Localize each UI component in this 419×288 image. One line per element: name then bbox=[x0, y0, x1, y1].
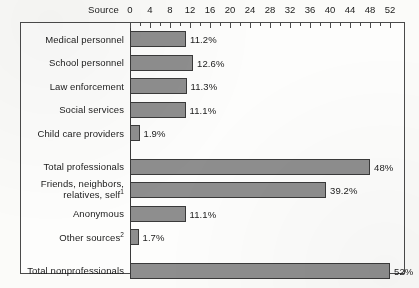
bar-row[interactable]: Other sources21.7% bbox=[0, 229, 419, 246]
x-minor-tick-2 bbox=[140, 22, 141, 26]
x-major-tick-52 bbox=[390, 22, 391, 28]
bar-row[interactable]: Total professionals48% bbox=[0, 159, 419, 176]
bar-row[interactable]: Law enforcement11.3% bbox=[0, 78, 419, 95]
x-major-tick-4 bbox=[150, 22, 151, 28]
bar[interactable] bbox=[130, 182, 326, 198]
bar-value-label: 12.6% bbox=[197, 58, 224, 69]
bar-row-label: Total professionals bbox=[24, 161, 124, 172]
bar-row[interactable]: Friends, neighbors,relatives, self139.2% bbox=[0, 182, 419, 199]
bar[interactable] bbox=[130, 78, 187, 94]
footnote-marker: 2 bbox=[120, 230, 124, 237]
x-major-tick-0 bbox=[130, 22, 131, 28]
x-tick-label-36: 36 bbox=[305, 4, 316, 15]
bar[interactable] bbox=[130, 102, 186, 118]
x-major-tick-32 bbox=[290, 22, 291, 28]
footnote-marker: 1 bbox=[120, 187, 124, 194]
bar-value-label: 48% bbox=[374, 162, 393, 173]
x-minor-tick-6 bbox=[160, 22, 161, 26]
x-minor-tick-10 bbox=[180, 22, 181, 26]
x-minor-tick-38 bbox=[320, 22, 321, 26]
bar[interactable] bbox=[130, 31, 186, 47]
bar-row-label: Other sources2 bbox=[24, 232, 124, 243]
x-major-tick-12 bbox=[190, 22, 191, 28]
bar-value-label: 11.1% bbox=[190, 209, 217, 220]
x-major-tick-16 bbox=[210, 22, 211, 28]
x-tick-label-32: 32 bbox=[285, 4, 296, 15]
x-major-tick-24 bbox=[250, 22, 251, 28]
bar-row[interactable]: School personnel12.6% bbox=[0, 55, 419, 72]
bar-value-label: 1.7% bbox=[143, 232, 165, 243]
bar-row-label: School personnel bbox=[24, 57, 124, 68]
axis-header: Source 0481216202428323640444852 bbox=[0, 0, 419, 22]
bar-value-label: 39.2% bbox=[330, 185, 357, 196]
bar-row-label: Child care providers bbox=[24, 128, 124, 139]
bar[interactable] bbox=[130, 55, 193, 71]
x-tick-label-24: 24 bbox=[245, 4, 256, 15]
x-tick-label-48: 48 bbox=[365, 4, 376, 15]
x-minor-tick-22 bbox=[240, 22, 241, 26]
x-tick-label-52: 52 bbox=[385, 4, 396, 15]
x-minor-tick-50 bbox=[380, 22, 381, 26]
x-tick-label-4: 4 bbox=[147, 4, 152, 15]
bar-value-label: 52% bbox=[394, 266, 413, 277]
bar-row[interactable]: Child care providers1.9% bbox=[0, 125, 419, 142]
x-minor-tick-26 bbox=[260, 22, 261, 26]
bar-value-label: 11.3% bbox=[191, 81, 218, 92]
bar-row[interactable]: Medical personnel11.2% bbox=[0, 31, 419, 48]
x-tick-label-44: 44 bbox=[345, 4, 356, 15]
bar-value-label: 11.1% bbox=[190, 105, 217, 116]
x-major-tick-20 bbox=[230, 22, 231, 28]
bar-row-label: Friends, neighbors,relatives, self1 bbox=[24, 179, 124, 200]
bar[interactable] bbox=[130, 263, 390, 279]
bar-row[interactable]: Total nonprofessionals52% bbox=[0, 263, 419, 280]
bar-row-label: Law enforcement bbox=[24, 81, 124, 92]
x-major-tick-28 bbox=[270, 22, 271, 28]
x-minor-tick-34 bbox=[300, 22, 301, 26]
bar[interactable] bbox=[130, 159, 370, 175]
bar-row-label: Medical personnel bbox=[24, 34, 124, 45]
bar[interactable] bbox=[130, 206, 186, 222]
x-major-tick-40 bbox=[330, 22, 331, 28]
x-major-tick-48 bbox=[370, 22, 371, 28]
bar-row-label: Total nonprofessionals bbox=[24, 265, 124, 276]
bar-row-label: Anonymous bbox=[24, 208, 124, 219]
bar[interactable] bbox=[130, 125, 140, 141]
x-minor-tick-42 bbox=[340, 22, 341, 26]
x-axis-line bbox=[130, 22, 405, 23]
bar-row-label-line2: relatives, self1 bbox=[24, 190, 124, 201]
bar[interactable] bbox=[130, 229, 139, 245]
x-minor-tick-18 bbox=[220, 22, 221, 26]
bar-row[interactable]: Anonymous11.1% bbox=[0, 206, 419, 223]
source-column-header: Source bbox=[55, 4, 119, 15]
x-major-tick-8 bbox=[170, 22, 171, 28]
x-tick-label-12: 12 bbox=[185, 4, 196, 15]
bar-row-label-line1: Friends, neighbors, bbox=[24, 179, 124, 190]
x-major-tick-44 bbox=[350, 22, 351, 28]
bar-chart-figure: Source 0481216202428323640444852 Medical… bbox=[0, 0, 419, 288]
x-tick-label-16: 16 bbox=[205, 4, 216, 15]
bar-value-label: 1.9% bbox=[144, 128, 166, 139]
x-tick-label-20: 20 bbox=[225, 4, 236, 15]
bar-row-label: Social services bbox=[24, 104, 124, 115]
x-major-tick-36 bbox=[310, 22, 311, 28]
x-tick-label-0: 0 bbox=[127, 4, 132, 15]
bar-row[interactable]: Social services11.1% bbox=[0, 102, 419, 119]
bar-value-label: 11.2% bbox=[190, 34, 217, 45]
x-tick-label-28: 28 bbox=[265, 4, 276, 15]
x-minor-tick-30 bbox=[280, 22, 281, 26]
x-minor-tick-14 bbox=[200, 22, 201, 26]
x-minor-tick-46 bbox=[360, 22, 361, 26]
x-tick-label-8: 8 bbox=[167, 4, 172, 15]
x-tick-label-40: 40 bbox=[325, 4, 336, 15]
